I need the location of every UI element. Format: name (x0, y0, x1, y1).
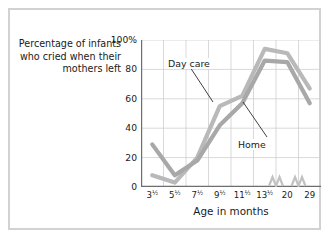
y-tick-label: 40 (125, 122, 137, 133)
x-tick-labels: 3½5½7½9½11½13½2029 (141, 190, 321, 204)
x-tick-label: 13½ (256, 190, 273, 200)
y-tick-label: 80 (125, 63, 137, 74)
y-tick-label: 0 (131, 181, 137, 192)
x-tick-label: 20 (282, 190, 293, 200)
x-tick-label: 5½ (169, 190, 181, 200)
x-tick-label: 9½ (214, 190, 226, 200)
x-axis-caption: Age in months (141, 205, 321, 217)
y-tick-label: 60 (125, 93, 137, 104)
y-tick-label: 100% (111, 34, 137, 45)
y-tick-labels: 020406080100% (96, 40, 137, 187)
axis-break-marks (269, 177, 306, 186)
series-label-home: Home (237, 139, 267, 150)
home-leader-line (243, 102, 267, 137)
series-label-day-care: Day care (167, 58, 211, 69)
x-tick-label: 29 (304, 190, 315, 200)
x-tick-label: 7½ (191, 190, 203, 200)
x-tick-label: 11½ (234, 190, 251, 200)
x-tick-label: 3½ (146, 190, 158, 200)
y-tick-label: 20 (125, 152, 137, 163)
figure-container: Percentage of infants who cried when the… (0, 0, 329, 238)
